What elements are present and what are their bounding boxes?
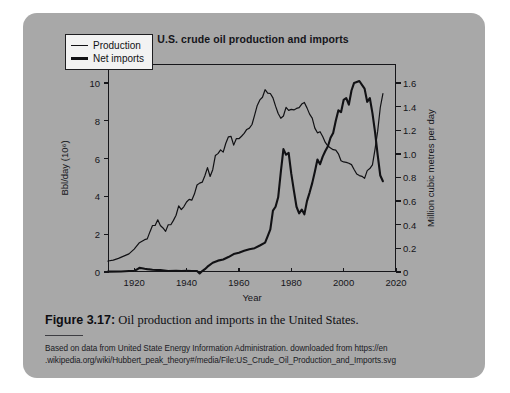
y-tick-label-right: 1.2 [403, 125, 429, 136]
axis-tick [396, 82, 401, 83]
legend-line-icon [71, 45, 88, 46]
axis-tick [396, 153, 401, 154]
y-tick-label-right: 0.6 [403, 196, 429, 207]
y-tick-label-left: 6 [74, 153, 100, 164]
figure-number: Figure 3.17: [45, 313, 115, 327]
source-line-1: Based on data from United State Energy I… [45, 343, 465, 355]
legend-line-icon [71, 57, 88, 59]
axis-tick [396, 106, 401, 107]
axis-tick [104, 196, 109, 197]
axis-tick [104, 271, 109, 272]
y-tick-label-right: 0.4 [403, 219, 429, 230]
legend-label: Net imports [93, 53, 144, 64]
source-line-2: .wikipedia.org/wiki/Hubbert_peak_theory#… [45, 355, 465, 367]
series-production [108, 90, 383, 261]
figure-card: U.S. crude oil production and imports Bb… [23, 13, 485, 378]
x-axis-label: Year [108, 292, 396, 303]
y-tick-label-left: 10 [74, 77, 100, 88]
chart-panel: U.S. crude oil production and imports Bb… [43, 25, 463, 310]
axis-tick [104, 158, 109, 159]
axis-tick [291, 268, 292, 273]
x-tick-label: 2020 [385, 277, 406, 288]
axis-tick [238, 268, 239, 273]
axis-tick [104, 82, 109, 83]
y-tick-label-left: 2 [74, 229, 100, 240]
legend-item-production: Production [71, 39, 144, 52]
axis-tick [395, 268, 396, 273]
y-tick-label-left: 0 [74, 267, 100, 278]
axis-tick [396, 130, 401, 131]
axis-tick [134, 268, 135, 273]
x-tick-label: 1980 [281, 277, 302, 288]
x-tick-label: 1920 [124, 277, 145, 288]
y-tick-label-right: 1.6 [403, 77, 429, 88]
x-tick-label: 2000 [333, 277, 354, 288]
figure-caption: Figure 3.17: Oil production and imports … [45, 313, 465, 329]
axis-tick [396, 177, 401, 178]
axis-tick [104, 120, 109, 121]
y-tick-label-right: 1.0 [403, 148, 429, 159]
y-tick-label-right: 0.2 [403, 243, 429, 254]
figure-caption-block: Figure 3.17: Oil production and imports … [45, 313, 465, 367]
y-tick-label-right: 1.4 [403, 101, 429, 112]
y-axis-label-left: Bbl/day (10⁶) [59, 140, 70, 195]
y-tick-label-right: 0 [403, 267, 429, 278]
axis-tick [343, 268, 344, 273]
y-tick-label-left: 4 [74, 191, 100, 202]
figure-caption-text: Oil production and imports in the United… [115, 313, 358, 327]
plot-area [108, 64, 396, 272]
legend-item-net-imports: Net imports [71, 52, 144, 65]
series-lines [108, 64, 396, 272]
x-tick-label: 1940 [176, 277, 197, 288]
caption-divider [45, 335, 83, 336]
axis-tick [396, 224, 401, 225]
axis-tick [186, 268, 187, 273]
legend-label: Production [93, 40, 141, 51]
series-net-imports [108, 81, 383, 273]
axis-tick [396, 248, 401, 249]
x-tick-label: 1960 [228, 277, 249, 288]
axis-tick [104, 234, 109, 235]
axis-tick [396, 200, 401, 201]
y-tick-label-left: 8 [74, 115, 100, 126]
y-tick-label-right: 0.8 [403, 172, 429, 183]
figure-source: Based on data from United State Energy I… [45, 343, 465, 367]
chart-legend: Production Net imports [65, 34, 153, 70]
